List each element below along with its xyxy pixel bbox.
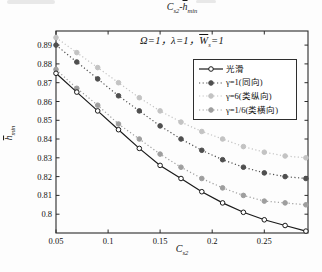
series-gamma-6-marker (200, 129, 205, 134)
y-tick-label: 0.8 (41, 209, 52, 219)
series-gamma-1-marker (158, 124, 163, 129)
series-gamma-1-6-marker (262, 199, 267, 204)
series-gamma-1-marker (241, 165, 246, 170)
series-gamma-6-marker (241, 144, 246, 149)
series-smooth-marker (137, 146, 142, 151)
series-gamma-6-marker (262, 150, 267, 155)
legend-sample-gamma-6 (198, 91, 224, 101)
series-gamma-1-6-marker (95, 103, 100, 108)
series-gamma-1-marker (75, 60, 80, 65)
legend-sample-gamma-1-6 (198, 105, 224, 115)
ylabel-hbar: h (4, 136, 14, 141)
annotation-wbar: W (199, 35, 208, 46)
figure: 0.050.10.150.20.250.80.810.820.830.840.8… (0, 0, 322, 272)
series-gamma-1-marker (95, 77, 100, 82)
series-gamma-1-6-marker (179, 165, 184, 170)
series-gamma-6-marker (95, 65, 100, 70)
legend-label-gamma-1: γ=1(同向) (226, 78, 262, 87)
legend-item-gamma-6: γ=6(类纵向) (198, 91, 296, 101)
series-gamma-6-marker (304, 156, 309, 161)
series-gamma-1-6-marker (158, 152, 163, 157)
series-gamma-1-6-marker (220, 186, 225, 191)
series-gamma-1-marker (200, 148, 205, 153)
series-smooth-marker (220, 201, 225, 206)
series-gamma-1-marker (262, 171, 267, 176)
y-tick-label: 0.87 (37, 78, 52, 88)
series-smooth-marker (54, 71, 59, 76)
series-gamma-6-marker (179, 120, 184, 125)
annotation-omega-lambda: Ω=1，λ=1， (140, 35, 199, 46)
legend-label-gamma-1-6: γ=1/6(类横向) (226, 106, 278, 115)
series-smooth-marker (262, 218, 267, 223)
series-smooth-marker (95, 109, 100, 114)
y-tick-label: 0.84 (37, 134, 53, 144)
parameter-annotation: Ω=1，λ=1，Ws=1 (56, 32, 308, 48)
series-smooth-marker (75, 90, 80, 95)
series-gamma-6-marker (116, 80, 121, 85)
legend-label-gamma-6: γ=6(类纵向) (226, 92, 271, 101)
series-gamma-1-marker (283, 174, 288, 179)
series-gamma-1-6-marker (200, 176, 205, 181)
annotation-wbar-value: =1 (211, 35, 224, 46)
series-smooth-marker (283, 223, 288, 228)
y-tick-label: 0.89 (37, 40, 52, 50)
series-gamma-6-marker (220, 137, 225, 142)
series-gamma-1-marker (220, 157, 225, 162)
series-gamma-1-marker (137, 109, 142, 114)
series-gamma-6-marker (137, 95, 142, 100)
legend-item-gamma-1: γ=1(同向) (198, 78, 296, 88)
series-gamma-1-6-marker (304, 203, 309, 208)
series-gamma-1-6-marker (116, 122, 121, 127)
series-gamma-6-marker (158, 109, 163, 114)
y-tick-label: 0.81 (37, 190, 52, 200)
legend: 光滑γ=1(同向)γ=6(类纵向)γ=1/6(类横向) (193, 59, 297, 120)
y-tick-label: 0.82 (37, 172, 52, 182)
y-axis-label: hmin (4, 126, 16, 141)
series-gamma-1-6-marker (241, 193, 246, 198)
legend-sample-gamma-1 (198, 78, 224, 88)
y-tick-label: 0.85 (37, 115, 52, 125)
series-smooth-marker (158, 163, 163, 168)
series-gamma-1-6-marker (137, 137, 142, 142)
xlabel-sub-s2: s2 (182, 249, 188, 256)
title-sub-min: min (188, 7, 198, 14)
chart-title: Cs2-hmin (56, 1, 308, 14)
legend-sample-smooth (198, 64, 224, 74)
series-gamma-1-6-marker (283, 201, 288, 206)
ylabel-sub-min: min (9, 126, 16, 136)
series-smooth-marker (200, 189, 205, 194)
legend-item-gamma-1-6: γ=1/6(类横向) (198, 105, 296, 115)
series-smooth-marker (179, 176, 184, 181)
x-axis-label: Cs2 (56, 243, 308, 256)
series-smooth-marker (241, 210, 246, 215)
series-gamma-1-marker (116, 94, 121, 99)
series-smooth-marker (304, 229, 309, 234)
legend-item-smooth: 光滑 (198, 64, 296, 74)
series-gamma-1-marker (304, 176, 309, 181)
series-smooth-marker (116, 127, 121, 132)
series-gamma-6-marker (75, 50, 80, 55)
y-tick-label: 0.83 (37, 153, 52, 163)
series-gamma-6-marker (283, 154, 288, 159)
legend-label-smooth: 光滑 (226, 65, 244, 74)
y-tick-label: 0.86 (37, 97, 52, 107)
y-tick-label: 0.88 (37, 59, 52, 69)
series-gamma-1-marker (179, 137, 184, 142)
